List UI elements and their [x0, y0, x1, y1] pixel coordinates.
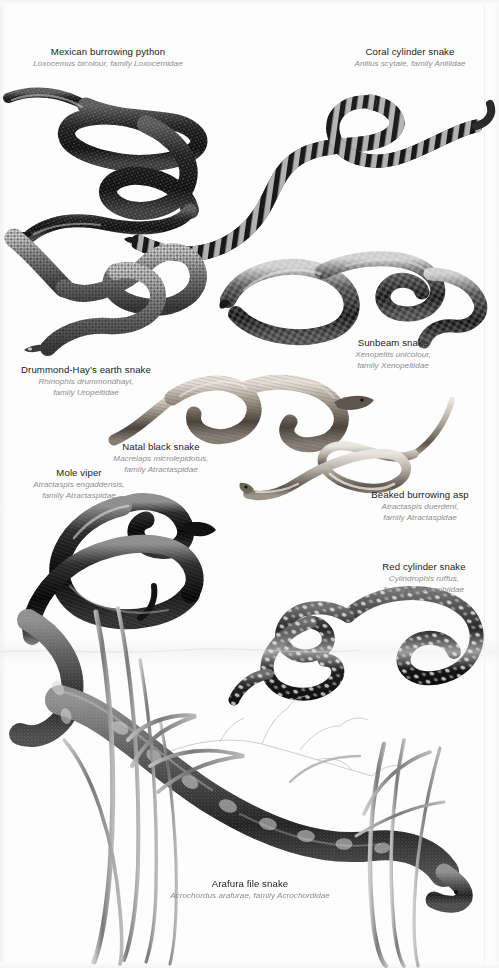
caption-beaked-burrowing-asp: Beaked burrowing asp Atractaspis duerden…: [352, 489, 488, 523]
species-common-name: Red cylinder snake: [358, 561, 490, 573]
species-common-name: Beaked burrowing asp: [352, 489, 488, 501]
species-common-name: Coral cylinder snake: [330, 46, 490, 58]
caption-arafura-file-snake: Arafura file snake Acrochordus arafurae,…: [160, 878, 340, 901]
species-common-name: Mexican burrowing python: [22, 46, 194, 58]
species-family-name: family Uropeltidae: [8, 388, 164, 398]
species-scientific-name: Cylindrophis ruffus,: [358, 574, 490, 584]
species-common-name: Drummond-Hay’s earth snake: [8, 364, 164, 376]
species-scientific-name: Acrochordus arafurae, family Acrochordid…: [160, 891, 340, 901]
caption-sunbeam-snake: Sunbeam snake Xenopeltis unicolour, fami…: [330, 337, 456, 371]
species-family-name: family Cylindrophiidae: [358, 585, 490, 595]
species-common-name: Mole viper: [14, 467, 144, 479]
illustration-drummond-hays-earth-snake: [8, 228, 223, 356]
species-common-name: Natal black snake: [88, 441, 234, 453]
illustration-arafura-file-snake: [0, 600, 499, 968]
species-scientific-name: Atractaspis engaddensis,: [14, 480, 144, 490]
species-scientific-name: Macrelaps microlepidotus,: [88, 454, 234, 464]
species-family-name: family Atractaspidae: [352, 513, 488, 523]
species-family-name: family Xenopeltidae: [330, 361, 456, 371]
caption-mole-viper: Mole viper Atractaspis engaddensis, fami…: [14, 467, 144, 501]
species-common-name: Sunbeam snake: [330, 337, 456, 349]
species-common-name: Arafura file snake: [160, 878, 340, 890]
caption-red-cylinder-snake: Red cylinder snake Cylindrophis ruffus, …: [358, 561, 490, 595]
caption-drummond-hays-earth-snake: Drummond-Hay’s earth snake Rhinophis dru…: [8, 364, 164, 398]
species-scientific-name: Atractaspis duerdeni,: [352, 502, 488, 512]
snake-illustration-plate: Mexican burrowing python Loxocemus bicol…: [0, 0, 499, 968]
caption-coral-cylinder-snake: Coral cylinder snake Anilius scytale, fa…: [330, 46, 490, 69]
species-scientific-name: Xenopeltis unicolour,: [330, 350, 456, 360]
species-scientific-name: Rhinophis drummondhayi,: [8, 377, 164, 387]
species-scientific-name: Loxocemus bicolour, family Loxocemidae: [22, 59, 194, 69]
caption-mexican-burrowing-python: Mexican burrowing python Loxocemus bicol…: [22, 46, 194, 69]
species-family-name: family Atractaspidae: [14, 491, 144, 501]
page-edge-top: [0, 0, 499, 5]
species-scientific-name: Anilius scytale, family Aniliidae: [330, 59, 490, 69]
